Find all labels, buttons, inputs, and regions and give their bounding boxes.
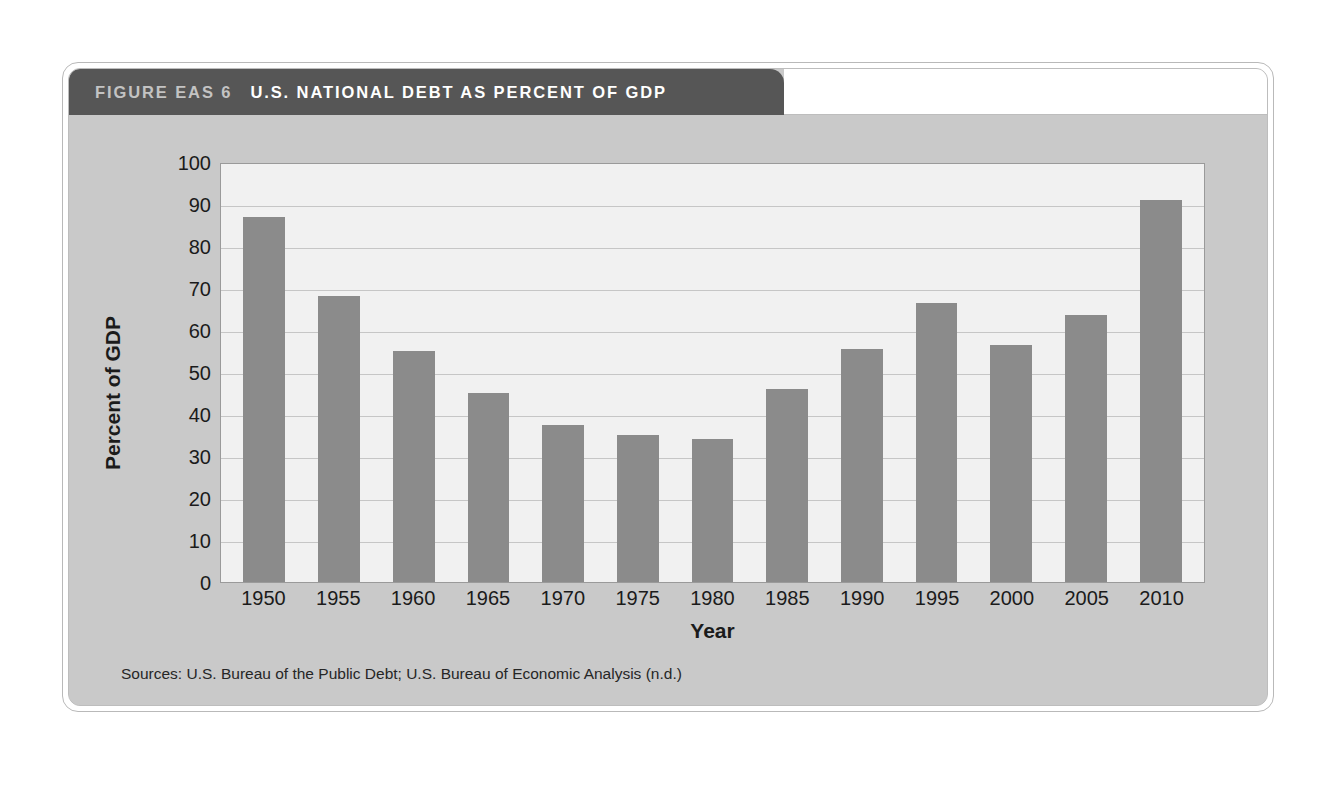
figure-card: FIGURE EAS 6 U.S. NATIONAL DEBT AS PERCE… — [62, 62, 1274, 712]
x-axis-tick: 1970 — [525, 587, 600, 610]
x-axis-tick: 1990 — [825, 587, 900, 610]
bar — [1140, 200, 1182, 582]
y-axis-tick: 20 — [189, 488, 211, 511]
figure-body: Percent of GDP 0102030405060708090100 19… — [69, 115, 1267, 705]
y-axis-tick-labels: 0102030405060708090100 — [159, 163, 211, 583]
bar-slot — [302, 164, 377, 582]
bar-slot — [376, 164, 451, 582]
x-axis-tick-labels: 1950195519601965197019751980198519901995… — [220, 587, 1205, 610]
figure-inner-frame: FIGURE EAS 6 U.S. NATIONAL DEBT AS PERCE… — [68, 68, 1268, 706]
bar — [766, 389, 808, 582]
y-axis-tick: 80 — [189, 236, 211, 259]
y-axis-tick: 50 — [189, 362, 211, 385]
bar-slot — [974, 164, 1049, 582]
x-axis-tick: 1955 — [301, 587, 376, 610]
y-axis-tick: 10 — [189, 530, 211, 553]
bar — [1065, 315, 1107, 582]
bar — [841, 349, 883, 582]
bar-chart: Percent of GDP 0102030405060708090100 19… — [115, 163, 1205, 635]
x-axis-tick: 2000 — [974, 587, 1049, 610]
x-axis-tick: 2010 — [1124, 587, 1199, 610]
y-axis-tick: 100 — [178, 152, 211, 175]
title-bar-filler — [784, 69, 1267, 115]
plot-area — [220, 163, 1205, 583]
bar — [916, 303, 958, 582]
figure-title-text: U.S. NATIONAL DEBT AS PERCENT OF GDP — [250, 83, 666, 102]
y-axis-tick: 30 — [189, 446, 211, 469]
bar-slot — [825, 164, 900, 582]
bar — [393, 351, 435, 582]
x-axis-tick: 1965 — [451, 587, 526, 610]
bar — [617, 435, 659, 582]
x-axis-tick: 1975 — [600, 587, 675, 610]
bar-series — [221, 164, 1204, 582]
figure-title-bar: FIGURE EAS 6 U.S. NATIONAL DEBT AS PERCE… — [69, 69, 784, 115]
bar-slot — [227, 164, 302, 582]
source-note: Sources: U.S. Bureau of the Public Debt;… — [121, 665, 682, 683]
y-axis-tick: 90 — [189, 194, 211, 217]
bar — [243, 217, 285, 582]
bar-slot — [899, 164, 974, 582]
x-axis-tick: 1960 — [376, 587, 451, 610]
bar — [990, 345, 1032, 582]
bar — [468, 393, 510, 582]
bar-slot — [526, 164, 601, 582]
bar — [318, 296, 360, 582]
x-axis-tick: 2005 — [1049, 587, 1124, 610]
x-axis-tick: 1985 — [750, 587, 825, 610]
x-axis-tick: 1995 — [900, 587, 975, 610]
x-axis-tick: 1980 — [675, 587, 750, 610]
bar-slot — [451, 164, 526, 582]
bar — [692, 439, 734, 582]
figure-number-label: FIGURE EAS 6 — [95, 83, 232, 102]
x-axis-title: Year — [220, 619, 1205, 643]
bar-slot — [1123, 164, 1198, 582]
y-axis-tick: 0 — [200, 572, 211, 595]
bar — [542, 425, 584, 583]
bar-slot — [1049, 164, 1124, 582]
y-axis-tick: 40 — [189, 404, 211, 427]
bar-slot — [750, 164, 825, 582]
y-axis-tick: 60 — [189, 320, 211, 343]
x-axis-tick: 1950 — [226, 587, 301, 610]
bar-slot — [675, 164, 750, 582]
bar-slot — [600, 164, 675, 582]
y-axis-tick: 70 — [189, 278, 211, 301]
y-axis-title: Percent of GDP — [101, 283, 125, 503]
